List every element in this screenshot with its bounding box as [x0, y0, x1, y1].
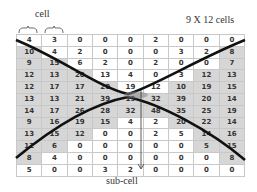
grid-row: 916191542202214 [17, 117, 245, 129]
grid-cell: 2 [118, 164, 143, 176]
grid-cell: 0 [194, 58, 219, 70]
grid-cell: 14 [219, 117, 244, 129]
grid-cell: 35 [168, 105, 193, 117]
grid-cell: 0 [143, 141, 168, 153]
grid-cell: 48 [143, 105, 168, 117]
grid-cell: 0 [168, 35, 193, 47]
cell-brace-left [19, 26, 37, 33]
grid-cell: 0 [118, 141, 143, 153]
grid-cell: 25 [194, 105, 219, 117]
grid-cell: 0 [92, 46, 117, 58]
grid-cell: 12 [194, 70, 219, 82]
grid-cell: 12 [17, 70, 42, 82]
grid-row: 430002000 [17, 35, 245, 47]
grid-row: 840000008 [17, 152, 245, 164]
grid-cell: 19 [67, 117, 92, 129]
grid-cell: 4 [118, 70, 143, 82]
grid-cell: 0 [143, 70, 168, 82]
grid-cell: 26 [67, 105, 92, 117]
grid-cell: 12 [17, 82, 42, 94]
cell-brace-right [45, 26, 63, 33]
grid-cell: 9 [17, 117, 42, 129]
grid-cell: 13 [42, 93, 67, 105]
grid-cell: 15 [42, 58, 67, 70]
grid-cell: 0 [118, 152, 143, 164]
grid-cell: 21 [67, 93, 92, 105]
grid-cell: 20 [168, 117, 193, 129]
grid-cell: 12 [143, 82, 168, 94]
grid-row: 12600000515 [17, 141, 245, 153]
grid-cell: 10 [17, 46, 42, 58]
grid-cell: 17 [67, 82, 92, 94]
grid-cell: 15 [219, 141, 244, 153]
grid-cell: 14 [194, 129, 219, 141]
grid-cell: 15 [92, 117, 117, 129]
grid-cell: 10 [168, 82, 193, 94]
grid-cell: 0 [219, 164, 244, 176]
grid-cell: 0 [194, 164, 219, 176]
grid-cell: 0 [194, 35, 219, 47]
grid-cell: 28 [92, 105, 117, 117]
grid-cell: 0 [92, 35, 117, 47]
grid-cell: 14 [219, 93, 244, 105]
grid-cell: 2 [143, 35, 168, 47]
grid-cell: 3 [42, 35, 67, 47]
grid-cell: 13 [17, 129, 42, 141]
grid-cell: 20 [92, 82, 117, 94]
grid-cell: 2 [143, 117, 168, 129]
grid-cell: 32 [143, 93, 168, 105]
grid-cell: 7 [219, 58, 244, 70]
grid-cell: 19 [219, 105, 244, 117]
grid-cell: 4 [42, 46, 67, 58]
grid-cell: 4 [118, 117, 143, 129]
grid-cell: 0 [168, 58, 193, 70]
grid-cell: 0 [67, 152, 92, 164]
grid-cell: 2 [143, 129, 168, 141]
grid-cell: 0 [143, 152, 168, 164]
grid-cell: 13 [219, 70, 244, 82]
grid-cell: 39 [168, 93, 193, 105]
grid-cell: 20 [67, 70, 92, 82]
grid-cell: 13 [92, 70, 117, 82]
grid-cell: 0 [118, 46, 143, 58]
grid-row: 500320000 [17, 164, 245, 176]
grid-cell: 3 [92, 164, 117, 176]
grid-cell: 22 [194, 117, 219, 129]
grid-cell: 8 [17, 152, 42, 164]
grid-cell: 4 [17, 35, 42, 47]
grid-cell: 13 [42, 70, 67, 82]
grid-cell: 0 [118, 35, 143, 47]
grid-cell: 17 [42, 82, 67, 94]
grid-cell: 13 [17, 93, 42, 105]
grid-cell: 12 [17, 141, 42, 153]
cell-label: cell [35, 8, 49, 19]
grid-cell: 2 [92, 58, 117, 70]
grid-cell: 0 [67, 164, 92, 176]
grid-cell: 0 [92, 129, 117, 141]
grid-cell: 0 [143, 46, 168, 58]
grid-cell: 5 [194, 141, 219, 153]
grid-cell: 2 [194, 46, 219, 58]
grid-row: 1042000328 [17, 46, 245, 58]
grid-cell: 3 [168, 70, 193, 82]
grid-row: 121320134031213 [17, 70, 245, 82]
grid-cell: 0 [219, 35, 244, 47]
grid-table: 4300020001042000328915620200712132013403… [16, 34, 245, 177]
grid-cell: 4 [42, 152, 67, 164]
grid-cell: 5 [17, 164, 42, 176]
grid-row: 13151200251416 [17, 129, 245, 141]
grid-cell: 20 [194, 93, 219, 105]
grid-cell: 16 [42, 117, 67, 129]
grid-cell: 17 [42, 105, 67, 117]
grid-row: 121717201912101915 [17, 82, 245, 94]
grid-cell: 2 [143, 58, 168, 70]
grid-cell: 6 [67, 58, 92, 70]
grid-cell: 16 [219, 129, 244, 141]
grid-size-label: 9 X 12 cells [186, 14, 234, 25]
grid-cell: 3 [168, 46, 193, 58]
grid-cell: 0 [92, 141, 117, 153]
grid-cell: 9 [17, 58, 42, 70]
grid-row: 141726283248352519 [17, 105, 245, 117]
grid-cell: 19 [194, 82, 219, 94]
grid-cell: 0 [67, 141, 92, 153]
